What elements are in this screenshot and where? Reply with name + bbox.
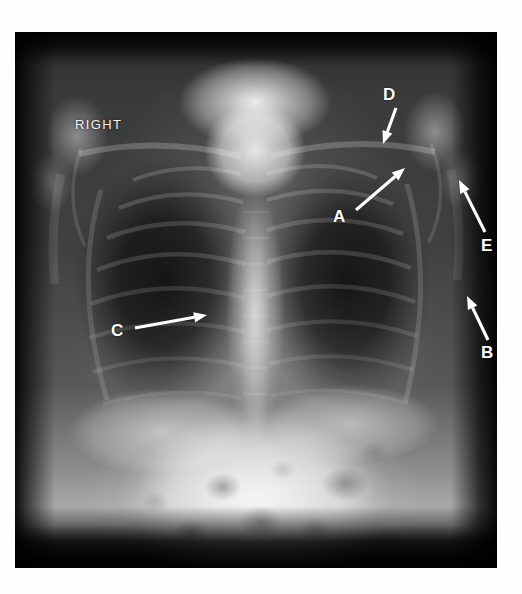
annotation-label-b: B: [481, 344, 494, 361]
annotation-arrow-c: [135, 312, 207, 328]
annotation-label-e: E: [481, 237, 493, 254]
annotation-arrow-a: [356, 168, 405, 210]
radiograph-page: RIGHT ABCDE: [0, 0, 522, 594]
annotation-arrow-e: [459, 180, 485, 232]
annotation-arrows: [15, 32, 497, 568]
annotation-label-d: D: [383, 86, 396, 103]
annotation-arrow-b: [467, 296, 488, 340]
annotation-label-a: A: [333, 208, 346, 225]
annotation-label-c: C: [111, 322, 124, 339]
annotation-overlay: RIGHT ABCDE: [15, 32, 497, 568]
chest-radiograph-image: RIGHT ABCDE: [15, 32, 497, 568]
annotation-arrow-d: [383, 108, 396, 144]
